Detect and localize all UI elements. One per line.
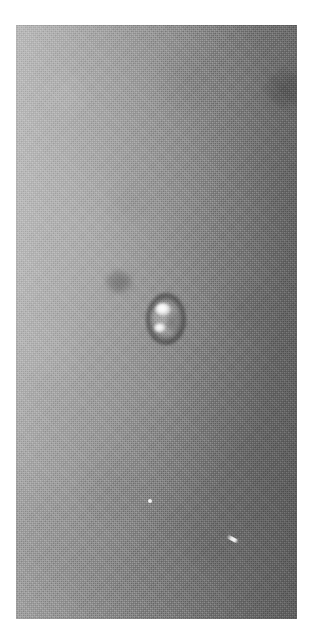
droplet-highlight-lower — [154, 323, 166, 333]
bright-speck-upper — [148, 499, 152, 503]
droplet-highlight-upper — [155, 303, 171, 316]
screenshot-root — [0, 0, 312, 640]
droplet-feature — [146, 293, 186, 345]
micrograph-plate — [16, 25, 297, 619]
faint-dark-spot-feature — [104, 269, 134, 295]
